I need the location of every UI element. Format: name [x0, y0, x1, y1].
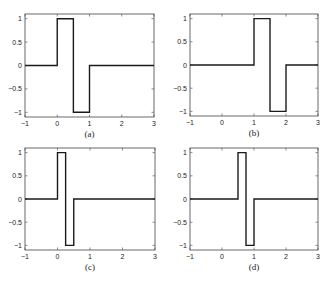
subplot-caption: (c): [85, 262, 95, 272]
y-tick-label: −0.5: [8, 219, 22, 226]
figure-2x2-haar-wavelets: −10123−1−0.500.51(a)−10123−1−0.500.51(b)…: [0, 0, 330, 285]
x-tick-label: 2: [284, 253, 288, 260]
y-tick-label: −1: [179, 242, 187, 249]
x-tick-label: 2: [121, 253, 125, 260]
wavelet-line: [25, 153, 155, 246]
wavelet-line: [25, 19, 154, 113]
subplot-caption: (a): [85, 129, 95, 139]
y-tick-label: 0.5: [12, 39, 22, 46]
y-tick-label: 1: [183, 149, 187, 156]
subplot-d: −10123−1−0.500.51(d): [173, 148, 320, 272]
y-tick-label: −1: [179, 108, 187, 115]
y-tick-label: −0.5: [8, 85, 22, 92]
subplot-caption: (b): [249, 128, 260, 138]
y-tick-label: 0: [183, 62, 187, 69]
subplot-c: −10123−1−0.500.51(c): [8, 148, 157, 272]
x-tick-label: −1: [186, 119, 194, 126]
y-tick-label: −1: [14, 109, 22, 116]
y-tick-label: 0: [18, 196, 22, 203]
subplot-a: −10123−1−0.500.51(a): [8, 14, 156, 139]
subplot-caption: (d): [249, 262, 260, 272]
x-tick-label: 3: [316, 253, 320, 260]
x-tick-label: 0: [220, 253, 224, 260]
x-tick-label: 2: [120, 120, 124, 127]
wavelet-line: [190, 19, 318, 112]
subplot-b: −10123−1−0.500.51(b): [173, 14, 320, 138]
y-tick-label: 0: [183, 196, 187, 203]
x-tick-label: 2: [284, 119, 288, 126]
y-tick-label: 0.5: [177, 38, 187, 45]
x-tick-label: 0: [56, 253, 60, 260]
x-tick-label: 3: [152, 120, 156, 127]
y-tick-label: −1: [14, 242, 22, 249]
x-tick-label: 0: [55, 120, 59, 127]
y-tick-label: −0.5: [173, 219, 187, 226]
wavelet-line: [190, 153, 318, 246]
x-tick-label: 3: [316, 119, 320, 126]
y-tick-label: 0: [18, 62, 22, 69]
x-tick-label: 1: [88, 253, 92, 260]
x-tick-label: 1: [252, 119, 256, 126]
y-tick-label: 1: [18, 15, 22, 22]
x-tick-label: 0: [220, 119, 224, 126]
y-tick-label: 0.5: [177, 172, 187, 179]
y-tick-label: 1: [18, 149, 22, 156]
y-tick-label: −0.5: [173, 85, 187, 92]
x-tick-label: −1: [186, 253, 194, 260]
y-tick-label: 1: [183, 15, 187, 22]
x-tick-label: 1: [252, 253, 256, 260]
y-tick-label: 0.5: [12, 172, 22, 179]
x-tick-label: −1: [21, 120, 29, 127]
x-tick-label: −1: [21, 253, 29, 260]
x-tick-label: 1: [88, 120, 92, 127]
x-tick-label: 3: [153, 253, 157, 260]
